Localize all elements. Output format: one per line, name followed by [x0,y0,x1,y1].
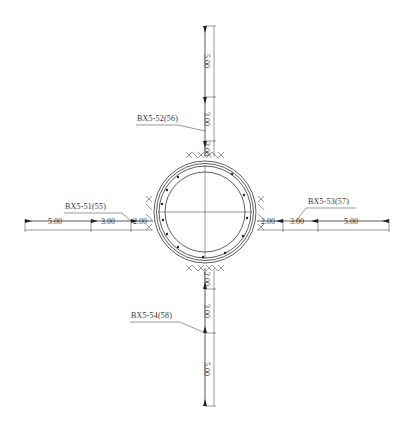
dim-right-5: 5.00 [344,218,358,226]
dim-top-3: 3.00 [202,112,210,126]
dim-right-2: 2.00 [261,218,275,226]
dim-bottom-5: 5.00 [202,362,210,376]
anchor-label-top: BX5-52(56) [137,115,178,123]
bottom-dimension-line [203,268,216,406]
anchor-label-left: BX5-51(55) [65,203,106,211]
dim-top-5: 5.00 [202,54,210,68]
dim-top-2: 2.00 [202,142,210,156]
top-dimension-line [203,26,216,157]
dim-bottom-2: 2.00 [202,272,210,286]
dim-right-3: 3.00 [290,218,304,226]
dim-left-5: 5.00 [48,218,62,226]
dim-left-3: 3.00 [101,218,115,226]
tunnel-section [154,161,256,263]
dim-left-2: 2.00 [133,218,147,226]
right-dimension-line [257,219,389,232]
dim-bottom-3: 3.00 [202,304,210,318]
anchor-label-bottom: BX5-54(58) [131,312,172,320]
anchor-label-right: BX5-53(57) [308,198,349,206]
